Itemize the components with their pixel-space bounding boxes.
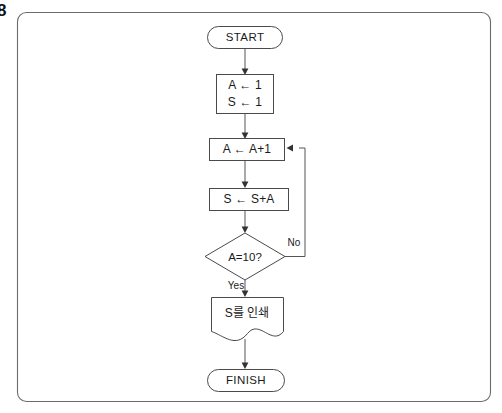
start-label: START: [226, 31, 265, 43]
increment-a-label: A ← A+1: [223, 142, 272, 156]
arrowhead-feedback: [287, 145, 294, 152]
node-start[interactable]: START: [208, 27, 283, 49]
node-increment-a[interactable]: A ← A+1: [210, 139, 285, 161]
flowchart-diagram: START A ← 1 S ← 1 A ← A+1 S ← S+A A=10? …: [0, 0, 502, 413]
node-add-s[interactable]: S ← S+A: [210, 189, 289, 211]
arrowhead-document: [242, 291, 249, 298]
arrowhead-add: [242, 182, 249, 189]
node-print-s[interactable]: S를 인쇄: [212, 298, 284, 341]
edge-label-no: No: [288, 237, 301, 248]
figure-page: 8 START A: [0, 0, 502, 413]
print-s-label: S를 인쇄: [225, 306, 269, 320]
node-init[interactable]: A ← 1 S ← 1: [217, 75, 274, 114]
init-label-line2: S ← 1: [228, 95, 262, 109]
arrowhead-decision: [242, 227, 249, 234]
arrowhead-finish: [242, 363, 249, 370]
node-finish[interactable]: FINISH: [208, 370, 285, 392]
decision-label: A=10?: [228, 251, 262, 263]
add-s-label: S ← S+A: [223, 192, 274, 206]
init-label-line1: A ← 1: [228, 78, 262, 92]
node-decision[interactable]: A=10?: [205, 233, 285, 280]
edge-label-yes: Yes: [228, 280, 244, 291]
finish-label: FINISH: [226, 374, 266, 386]
